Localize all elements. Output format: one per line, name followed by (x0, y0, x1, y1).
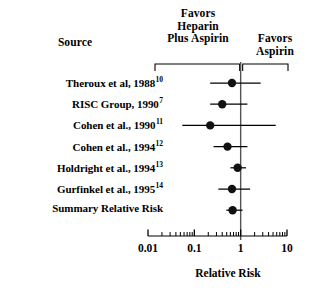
summary-estimate-marker (228, 206, 236, 214)
forest-row (210, 79, 260, 87)
point-estimate-marker (233, 164, 241, 172)
point-estimate-marker (206, 121, 214, 129)
forest-plot-figure: Source Favors Heparin Plus Aspirin Favor… (0, 0, 315, 288)
x-axis-tick-label: 1 (238, 242, 244, 254)
forest-rows (182, 79, 275, 215)
x-axis-tick-label: 0.1 (187, 242, 201, 254)
forest-row (218, 185, 250, 193)
forest-row (214, 142, 248, 150)
bracket-favors-aspirin (243, 64, 288, 71)
forest-row (182, 121, 275, 129)
point-estimate-marker (228, 79, 236, 87)
x-axis-tick-label: 10 (281, 242, 293, 254)
forest-row (210, 100, 247, 108)
point-estimate-marker (228, 185, 236, 193)
bracket-favors-heparin (155, 64, 240, 71)
x-axis-title: Relative Risk (152, 267, 304, 279)
favors-brackets (155, 64, 288, 71)
forest-row (230, 164, 246, 172)
x-axis (148, 230, 287, 237)
x-axis-tick-label: 0.01 (138, 242, 158, 254)
point-estimate-marker (218, 100, 226, 108)
point-estimate-marker (223, 142, 231, 150)
